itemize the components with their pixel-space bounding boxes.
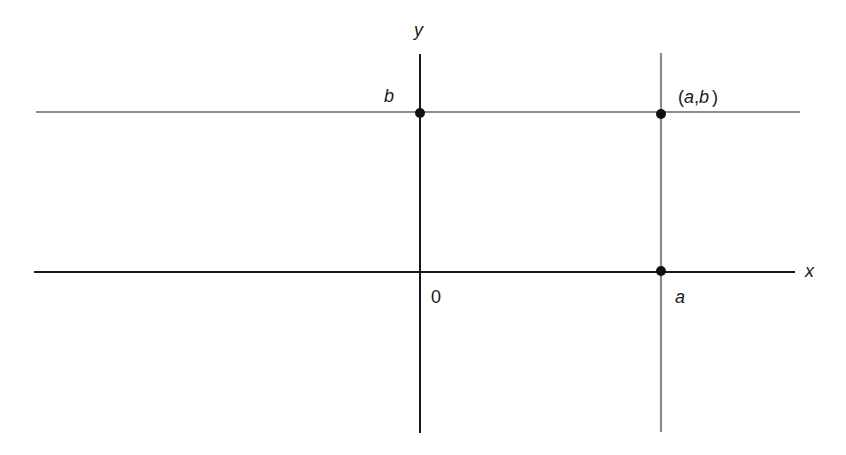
point-b-on-y-axis bbox=[415, 108, 425, 118]
coord-a: a bbox=[684, 87, 694, 107]
b-label: b bbox=[384, 86, 394, 107]
origin-label: 0 bbox=[431, 287, 441, 308]
coord-b: b bbox=[699, 87, 709, 107]
point-a-on-x-axis bbox=[656, 266, 666, 276]
point-a-b bbox=[656, 109, 666, 119]
point-a-b-label: (a,b) bbox=[678, 87, 718, 108]
y-axis-label: y bbox=[414, 20, 423, 41]
paren-close: ) bbox=[712, 87, 718, 107]
a-label: a bbox=[675, 287, 685, 308]
coordinate-diagram bbox=[0, 0, 846, 455]
x-axis-label: x bbox=[805, 261, 814, 282]
